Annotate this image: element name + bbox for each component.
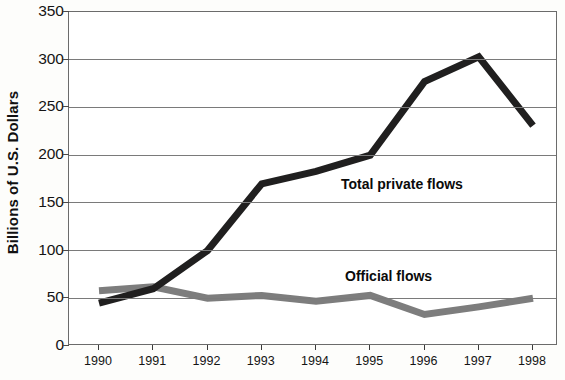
- y-axis-tick-label: 350: [24, 2, 64, 20]
- y-axis-tick-label: 0: [24, 336, 64, 354]
- gridline: [69, 250, 556, 251]
- series-label-official-flows: Official flows: [345, 268, 432, 284]
- x-axis-tick-mark: [424, 345, 425, 350]
- y-axis-tick-labels: 050100150200250300350: [22, 0, 64, 380]
- plot-area: [68, 11, 557, 345]
- x-axis-tick-mark: [98, 345, 99, 350]
- x-axis-tick-mark: [369, 345, 370, 350]
- series-lines: [69, 12, 558, 346]
- series-label-total-private-flows: Total private flows: [341, 176, 463, 192]
- y-axis-tick-mark: [63, 297, 69, 298]
- x-axis-tick-mark: [315, 345, 316, 350]
- x-axis-tick-label: 1997: [464, 354, 492, 368]
- x-axis-tick-label: 1992: [193, 354, 221, 368]
- x-axis-tick-label: 1995: [355, 354, 383, 368]
- gridline: [69, 59, 556, 60]
- y-axis-tick-label: 50: [24, 288, 64, 306]
- gridline: [69, 202, 556, 203]
- series-line-total-private-flows: [99, 57, 533, 303]
- y-axis-tick-mark: [63, 59, 69, 60]
- y-axis-tick-mark: [63, 202, 69, 203]
- x-axis-tick-label: 1993: [247, 354, 275, 368]
- y-axis-tick-mark: [63, 11, 69, 12]
- x-axis-tick-label: 1990: [84, 354, 112, 368]
- x-axis-tick-mark: [478, 345, 479, 350]
- y-axis-tick-mark: [63, 154, 69, 155]
- y-axis-title-text: Billions of U.S. Dollars: [5, 91, 22, 254]
- x-axis-tick-label: 1994: [301, 354, 329, 368]
- series-line-official-flows: [99, 287, 533, 315]
- gridline: [69, 107, 556, 108]
- y-axis-tick-mark: [63, 250, 69, 251]
- x-axis-tick-mark: [207, 345, 208, 350]
- gridline: [69, 298, 556, 299]
- y-axis-tick-label: 300: [24, 50, 64, 68]
- x-axis-tick-label: 1998: [518, 354, 546, 368]
- y-axis-tick-label: 250: [24, 97, 64, 115]
- x-axis-tick-mark: [532, 345, 533, 350]
- y-axis-tick-mark: [63, 345, 69, 346]
- x-axis-tick-label: 1996: [410, 354, 438, 368]
- y-axis-tick-label: 200: [24, 145, 64, 163]
- gridline: [69, 155, 556, 156]
- y-axis-tick-label: 100: [24, 241, 64, 259]
- x-axis-tick-mark: [261, 345, 262, 350]
- x-axis-tick-label: 1991: [138, 354, 166, 368]
- y-axis-tick-label: 150: [24, 193, 64, 211]
- chart-figure: Billions of U.S. Dollars 050100150200250…: [0, 0, 565, 380]
- x-axis-tick-mark: [152, 345, 153, 350]
- y-axis-tick-mark: [63, 106, 69, 107]
